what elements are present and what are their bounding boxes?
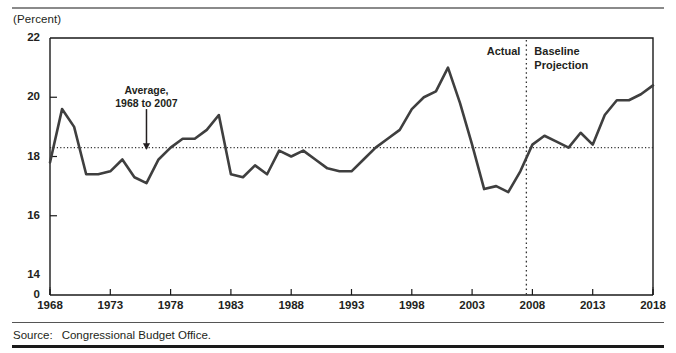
x-tick-label-2013: 2013 xyxy=(571,299,615,311)
x-tick-label-1983: 1983 xyxy=(209,299,253,311)
y-tick-label-14: 14 xyxy=(14,268,40,280)
average-annotation-line1: Average, xyxy=(124,84,168,96)
projection-label-line1: Baseline xyxy=(534,45,579,57)
average-annotation-line2: 1968 to 2007 xyxy=(115,97,177,109)
y-tick-label-22: 22 xyxy=(14,31,40,43)
x-tick-label-1978: 1978 xyxy=(149,299,193,311)
actual-label: Actual xyxy=(476,44,520,58)
source-prefix: Source: xyxy=(13,329,53,341)
y-tick-label-16: 16 xyxy=(14,209,40,221)
chart-figure: (Percent) Average, 1968 to 2007 Actual B… xyxy=(0,0,676,353)
source-text: Congressional Budget Office. xyxy=(62,329,211,341)
plot-frame xyxy=(50,38,653,287)
y-tick-label-18: 18 xyxy=(14,150,40,162)
source-divider xyxy=(12,322,664,323)
x-tick-label-1968: 1968 xyxy=(28,299,72,311)
x-tick-label-2003: 2003 xyxy=(450,299,494,311)
x-tick-label-2018: 2018 xyxy=(631,299,675,311)
projection-label-line2: Projection xyxy=(534,59,588,71)
x-tick-label-2008: 2008 xyxy=(510,299,554,311)
x-tick-label-1998: 1998 xyxy=(390,299,434,311)
source-note: Source:Congressional Budget Office. xyxy=(13,329,211,341)
baseline-projection-label: Baseline Projection xyxy=(534,44,588,72)
x-tick-label-1993: 1993 xyxy=(330,299,374,311)
average-arrow-head xyxy=(143,143,150,150)
x-tick-label-1973: 1973 xyxy=(88,299,132,311)
x-tick-label-1988: 1988 xyxy=(269,299,313,311)
average-annotation: Average, 1968 to 2007 xyxy=(86,84,206,110)
bottom-divider xyxy=(12,345,664,348)
y-tick-label-20: 20 xyxy=(14,90,40,102)
